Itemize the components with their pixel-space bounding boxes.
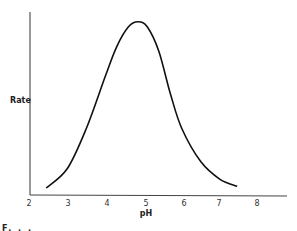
y-axis-label: Rate — [10, 96, 31, 105]
x-tick-label: 8 — [254, 199, 259, 208]
x-axis-label: pH — [140, 209, 152, 218]
x-axis — [30, 195, 287, 196]
rate-vs-ph-chart: 2 3 4 5 6 7 8 Rate pH — [0, 0, 297, 231]
x-tick-label: 2 — [26, 199, 31, 208]
x-tick-label: 3 — [65, 199, 70, 208]
x-tick-labels: 2 3 4 5 6 7 8 — [26, 199, 259, 208]
figure-caption: F. . . — [2, 224, 33, 231]
x-tick-label: 7 — [216, 199, 221, 208]
rate-curve — [46, 22, 237, 188]
x-tick-label: 5 — [143, 199, 148, 208]
x-tick-label: 6 — [181, 199, 186, 208]
x-tick-label: 4 — [104, 199, 109, 208]
